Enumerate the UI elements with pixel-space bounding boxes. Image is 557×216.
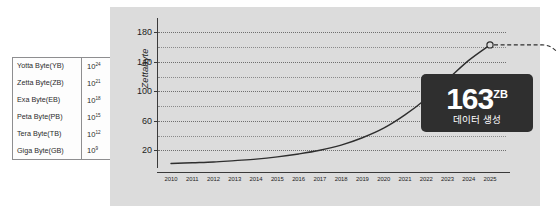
chart-figure: Yotta Byte(YB) 1024 Zetta Byte(ZB) 1021 … — [0, 0, 557, 216]
y-tick-label: 100 — [137, 86, 152, 96]
callout-unit: ZB — [493, 88, 508, 100]
x-axis-line — [157, 172, 510, 173]
unit-name: Exa Byte(EB) — [13, 92, 82, 109]
x-tick-label: 2015 — [271, 176, 284, 182]
x-tick-label: 2012 — [207, 176, 220, 182]
x-tick-label: 2014 — [250, 176, 263, 182]
unit-exponent: 12 — [95, 130, 100, 135]
table-row: Zetta Byte(ZB) 1021 — [13, 75, 114, 92]
x-tick-label: 2022 — [420, 176, 433, 182]
leader-line — [494, 45, 557, 75]
x-tick-label: 2020 — [377, 176, 390, 182]
callout-value: 163 — [446, 82, 493, 115]
unit-name: Yotta Byte(YB) — [13, 58, 82, 75]
x-tick-label: 2010 — [165, 176, 178, 182]
table-row: Exa Byte(EB) 1018 — [13, 92, 114, 109]
x-tick-label: 2019 — [356, 176, 369, 182]
callout-caption: 데이터 생성 — [421, 112, 533, 126]
unit-exponent: 9 — [95, 146, 98, 151]
table-row: Tera Byte(TB) 1012 — [13, 126, 114, 143]
unit-exponent: 24 — [95, 62, 100, 67]
unit-exponent: 18 — [95, 96, 100, 101]
unit-value: 109 — [82, 142, 114, 159]
unit-value: 1015 — [82, 109, 114, 126]
y-tick-label: 180 — [137, 27, 152, 37]
x-tick-label: 2021 — [398, 176, 411, 182]
unit-name: Tera Byte(TB) — [13, 126, 82, 143]
x-tick-label: 2013 — [228, 176, 241, 182]
table-row: Yotta Byte(YB) 1024 — [13, 58, 114, 75]
y-tick-label: 140 — [137, 57, 152, 67]
y-axis-title: Zettabyte — [139, 29, 150, 109]
unit-value: 1021 — [82, 75, 114, 92]
unit-exponent: 21 — [95, 79, 100, 84]
x-tick-label: 2025 — [484, 176, 497, 182]
endpoint-marker-icon — [487, 42, 493, 48]
unit-name: Giga Byte(GB) — [13, 142, 82, 159]
x-tick-label: 2018 — [335, 176, 348, 182]
y-tick-label: 60 — [142, 116, 152, 126]
value-callout: 163ZB 데이터 생성 — [421, 74, 533, 132]
x-tick-label: 2024 — [462, 176, 475, 182]
table-row: Peta Byte(PB) 1015 — [13, 109, 114, 126]
y-tick-label: 20 — [142, 145, 152, 155]
x-tick-labels-group: 2010201120122013201420152016201720182019… — [157, 176, 506, 186]
unit-name: Peta Byte(PB) — [13, 109, 82, 126]
x-tick-label: 2023 — [441, 176, 454, 182]
byte-units-table: Yotta Byte(YB) 1024 Zetta Byte(ZB) 1021 … — [12, 57, 114, 160]
table-row: Giga Byte(GB) 109 — [13, 142, 114, 159]
unit-exponent: 15 — [95, 113, 100, 118]
x-tick-label: 2017 — [313, 176, 326, 182]
callout-value-row: 163ZB — [421, 78, 533, 115]
unit-value: 1024 — [82, 58, 114, 75]
unit-value: 1018 — [82, 92, 114, 109]
byte-units-table-body: Yotta Byte(YB) 1024 Zetta Byte(ZB) 1021 … — [13, 58, 114, 160]
unit-value: 1012 — [82, 126, 114, 143]
x-tick-label: 2011 — [186, 176, 198, 182]
unit-name: Zetta Byte(ZB) — [13, 75, 82, 92]
x-tick-label: 2016 — [292, 176, 305, 182]
